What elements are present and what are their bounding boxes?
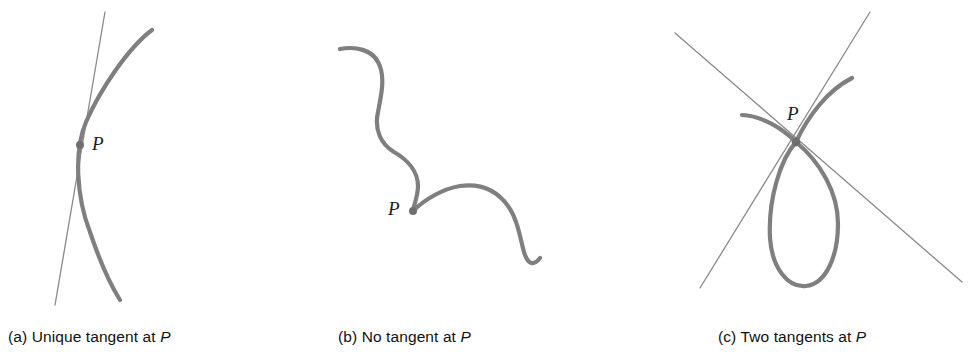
curve-a	[78, 30, 152, 300]
caption-point-a: P	[160, 328, 170, 345]
point-label-p-c: P	[787, 103, 799, 125]
caption-text-c: (c) Two tangents at	[718, 328, 856, 345]
tangent-line-c-descending	[675, 33, 962, 282]
panel-c	[675, 12, 962, 288]
tangent-lines-figure: P P P (a) Unique tangent at P (b) No tan…	[0, 0, 970, 357]
caption-panel-a: (a) Unique tangent at P	[8, 328, 171, 346]
tangent-line-c-ascending	[700, 12, 870, 288]
curve-b	[340, 48, 540, 263]
caption-point-b: P	[460, 328, 470, 345]
figure-canvas	[0, 0, 970, 357]
caption-panel-c: (c) Two tangents at P	[718, 328, 866, 346]
panel-b	[340, 48, 540, 263]
point-p-a	[76, 141, 84, 149]
point-p-b	[409, 207, 417, 215]
point-p-c	[792, 138, 801, 147]
caption-text-b: (b) No tangent at	[338, 328, 460, 345]
caption-point-c: P	[856, 328, 866, 345]
curve-c-loop	[770, 142, 838, 286]
caption-text-a: (a) Unique tangent at	[8, 328, 160, 345]
point-label-p-b: P	[388, 198, 400, 220]
caption-panel-b: (b) No tangent at P	[338, 328, 471, 346]
panel-a	[55, 12, 152, 305]
point-label-p-a: P	[92, 133, 104, 155]
